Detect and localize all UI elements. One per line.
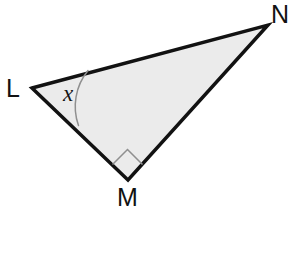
vertex-label-n: N (271, 0, 289, 28)
triangle-diagram-svg: x L M N (0, 0, 292, 256)
geometry-figure: x L M N (0, 0, 292, 256)
vertex-label-l: L (6, 74, 20, 102)
angle-label-x: x (62, 81, 74, 106)
vertex-label-m: M (117, 183, 138, 211)
